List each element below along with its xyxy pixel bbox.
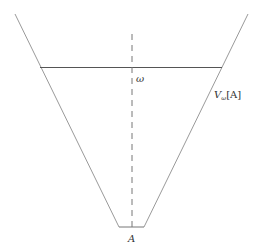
neighborhood-label-arg: [A] <box>226 89 241 100</box>
neighborhood-label: Vω[A] <box>214 89 241 101</box>
omega-label: ω <box>136 73 144 84</box>
cone-left-edge <box>15 14 119 227</box>
base-label-A: A <box>127 233 135 244</box>
cone-neighborhood-diagram: ω Vω[A] A <box>0 0 258 248</box>
cone-right-edge <box>144 14 248 227</box>
